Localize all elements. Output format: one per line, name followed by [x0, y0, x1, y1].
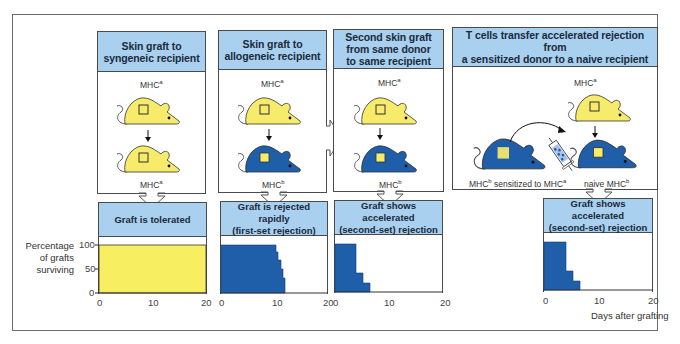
recipient-label: MHCb — [379, 179, 402, 190]
donor-label: MHCa — [261, 78, 284, 89]
panel-header: Skin graft to allogeneic recipient — [219, 31, 326, 70]
panel-t-cell-transfer: T cells transfer accelerated rejection f… — [452, 27, 658, 190]
arrow-down-icon — [266, 129, 272, 141]
result-second-set: Graft shows accelerated (second-set) rej… — [334, 200, 443, 235]
donor-mouse-yellow-icon — [350, 94, 420, 128]
result-first-set: Graft is rejected rapidly (first-set rej… — [220, 201, 328, 236]
recipient-mouse-blue-icon — [350, 142, 420, 176]
y-tick-50: 50 — [85, 263, 96, 274]
donor-mouse-yellow-icon — [234, 94, 304, 128]
result-line: Graft shows accelerated — [544, 198, 652, 222]
chart-second-set — [334, 238, 444, 294]
header-line: Skin graft to — [243, 38, 303, 50]
recipient-mouse-blue-icon — [234, 142, 304, 176]
x-tick-10: 10 — [384, 297, 395, 308]
x-tick-10: 10 — [148, 297, 159, 308]
arrow-down-icon — [145, 130, 151, 142]
chart-tolerated — [98, 240, 208, 296]
donor-label: MHCa — [574, 77, 597, 88]
result-tolerated: Graft is tolerated — [98, 202, 207, 237]
header-line: to same recipient — [346, 55, 431, 67]
donor-mouse-yellow-icon — [564, 91, 634, 125]
naive-label: naive MHCb — [584, 178, 629, 189]
y-tick-100: 100 — [79, 239, 95, 250]
x-tick-10: 10 — [594, 295, 605, 306]
y-axis-label-line: surviving — [18, 264, 74, 276]
y-axis-label-line: of grafts — [18, 252, 74, 264]
result-second-set-transfer: Graft shows accelerated (second-set) rej… — [543, 198, 653, 233]
header-line: syngeneic recipient — [103, 52, 199, 64]
y-axis-label: Percentage of grafts surviving — [18, 240, 74, 276]
naive-mouse-blue-icon — [566, 136, 640, 172]
x-tick-20: 20 — [323, 297, 334, 308]
x-tick-0: 0 — [333, 297, 338, 308]
donor-mouse-yellow-icon — [113, 94, 183, 128]
donor-label: MHCa — [378, 77, 401, 88]
panel-header: Skin graft to syngeneic recipient — [98, 32, 205, 72]
panel-syngeneic: Skin graft to syngeneic recipient MHCa M… — [97, 31, 206, 194]
result-line: Graft is rejected rapidly — [221, 201, 327, 225]
header-line: a sensitized donor to a naive recipient — [462, 53, 648, 65]
panel-header: T cells transfer accelerated rejection f… — [453, 28, 657, 67]
header-line: from same donor — [346, 43, 430, 55]
y-tick-0: 0 — [89, 287, 94, 298]
sensitized-label: MHCb sensitized to MHCa — [469, 178, 566, 189]
recipient-mouse-yellow-icon — [113, 142, 183, 176]
chart-first-set — [220, 240, 330, 296]
header-line: allogeneic recipient — [224, 50, 320, 62]
chart-transfer-second-set — [543, 237, 655, 293]
x-axis-label: Days after grafting — [591, 310, 669, 321]
x-tick-0: 0 — [219, 297, 224, 308]
x-tick-20: 20 — [201, 297, 212, 308]
y-axis-label-line: Percentage — [18, 240, 74, 252]
header-line: Skin graft to — [122, 40, 182, 52]
result-line: Graft shows accelerated — [335, 200, 442, 224]
arrow-down-icon — [377, 128, 383, 140]
panel-header: Second skin graft from same donor to sam… — [334, 30, 443, 69]
x-tick-10: 10 — [272, 297, 283, 308]
panel-allogeneic: Skin graft to allogeneic recipient MHCa … — [218, 30, 327, 193]
header-line: T cells transfer accelerated rejection f… — [453, 29, 657, 53]
x-tick-20: 20 — [648, 295, 659, 306]
result-line: Graft is tolerated — [114, 214, 190, 226]
header-line: Second skin graft — [345, 31, 431, 43]
recipient-label: MHCa — [140, 179, 163, 190]
x-tick-20: 20 — [440, 297, 451, 308]
recipient-label: MHCb — [262, 179, 285, 190]
panel-second-graft: Second skin graft from same donor to sam… — [333, 29, 444, 192]
x-tick-0: 0 — [543, 295, 548, 306]
x-tick-0: 0 — [97, 297, 102, 308]
donor-label: MHCa — [140, 79, 163, 90]
